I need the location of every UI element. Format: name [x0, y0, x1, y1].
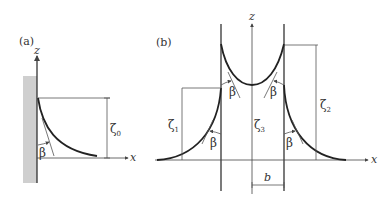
meniscus-curve — [38, 98, 97, 156]
gap-label: b — [264, 171, 271, 184]
meniscus-diagram: (a) z x β ζ0 (b) z — [0, 0, 387, 202]
height-label: ζ0 — [110, 122, 121, 138]
angle-label-1: β — [229, 85, 236, 99]
angle-label-2: β — [270, 85, 277, 99]
angle-label-4: β — [286, 136, 293, 150]
z-axis-label: z — [33, 44, 40, 57]
angle-arc-3 — [210, 131, 221, 134]
zeta3-label: ζ3 — [254, 118, 265, 134]
angle-arc-4 — [284, 131, 295, 134]
inner-meniscus — [221, 44, 284, 85]
x-axis-label: x — [130, 151, 137, 164]
panel-b-label: (b) — [156, 36, 172, 49]
panel-a: (a) z x β ζ0 — [19, 35, 137, 183]
wall — [23, 76, 37, 183]
angle-label: β — [39, 146, 46, 160]
panel-a-label: (a) — [19, 35, 34, 48]
z-axis-label: z — [248, 10, 255, 23]
panel-b: (b) z x β β β β ζ1 — [155, 10, 378, 194]
tangent-outer-right — [292, 120, 303, 144]
zeta2-label: ζ2 — [320, 98, 331, 114]
angle-arc — [38, 142, 49, 145]
x-axis-label: x — [371, 153, 378, 166]
angle-label-3: β — [210, 136, 217, 150]
zeta1-label: ζ1 — [168, 118, 179, 134]
